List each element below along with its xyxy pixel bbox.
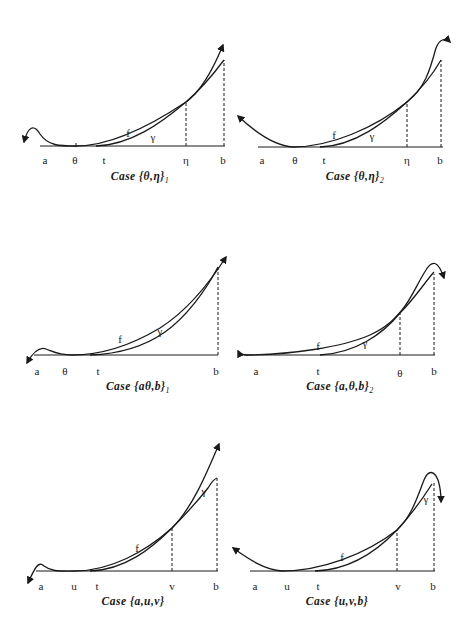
axis-label-a: a bbox=[43, 155, 48, 166]
panel-case-theta-eta-2: f γ a θ t η b Case {θ,η}2 bbox=[230, 0, 469, 200]
axis-label-t: t bbox=[102, 155, 105, 166]
curve-label-gamma: γ bbox=[151, 132, 156, 143]
curve-label-f: f bbox=[340, 552, 344, 563]
axis-label-a: a bbox=[254, 366, 259, 377]
curve-f bbox=[27, 257, 226, 363]
axis-label-theta: θ bbox=[292, 155, 297, 166]
curve-gamma bbox=[96, 60, 224, 146]
curve-label-f: f bbox=[316, 341, 320, 352]
caption-case-theta-eta-2: Case {θ,η}2 bbox=[326, 170, 385, 185]
panel-case-u-v-b: f γ a u t v b Case {u,v,b} bbox=[230, 430, 469, 624]
caption-case-theta-eta-1: Case {θ,η}1 bbox=[111, 170, 170, 185]
panel-case-theta-eta-1: f γ a θ t η b Case {θ,η}1 bbox=[0, 0, 235, 200]
axis-label-t: t bbox=[95, 581, 98, 592]
panel-case-a-theta-b-2: f γ a t θ b Case {a,θ,b}2 bbox=[230, 210, 469, 410]
curve-label-gamma: γ bbox=[202, 486, 207, 497]
axis-label-b: b bbox=[437, 155, 443, 166]
curve-gamma bbox=[320, 272, 434, 355]
curve-label-f: f bbox=[126, 128, 130, 139]
axis-label-v: v bbox=[395, 581, 401, 592]
curve-label-gamma: γ bbox=[363, 338, 368, 349]
axis-label-t: t bbox=[96, 366, 99, 377]
curve-gamma bbox=[90, 478, 217, 571]
axis-label-b: b bbox=[220, 155, 226, 166]
axis-label-u: u bbox=[71, 581, 77, 592]
panel-case-a-theta-b-1: f γ a θ t b Case {aθ,b}1 bbox=[0, 210, 235, 410]
curve-label-f: f bbox=[332, 130, 336, 141]
axis-label-b: b bbox=[213, 581, 219, 592]
axis-label-b: b bbox=[430, 581, 436, 592]
axis-label-a: a bbox=[39, 581, 44, 592]
curve-f bbox=[238, 263, 444, 355]
curve-gamma bbox=[315, 484, 432, 571]
axis-label-theta: θ bbox=[62, 366, 67, 377]
axis-label-b: b bbox=[431, 366, 437, 377]
axis-label-u: u bbox=[284, 581, 290, 592]
curve-label-f: f bbox=[135, 543, 139, 554]
caption-case-a-theta-b-2: Case {a,θ,b}2 bbox=[306, 380, 374, 395]
axis-label-t: t bbox=[316, 581, 319, 592]
curve-label-f: f bbox=[118, 334, 122, 345]
caption-case-a-u-v: Case {a,u,v} bbox=[102, 595, 165, 610]
panel-case-a-u-v: f γ a u t v b Case {a,u,v} bbox=[0, 430, 235, 624]
axis-label-theta: θ bbox=[72, 155, 77, 166]
axis-label-t: t bbox=[322, 155, 325, 166]
caption-case-a-theta-b-1: Case {aθ,b}1 bbox=[106, 380, 170, 395]
curve-label-gamma: γ bbox=[158, 326, 163, 337]
axis-label-b: b bbox=[213, 366, 219, 377]
axis-label-a: a bbox=[35, 366, 40, 377]
axis-label-theta: θ bbox=[397, 368, 402, 379]
axis-label-a: a bbox=[253, 581, 258, 592]
axis-label-a: a bbox=[260, 155, 265, 166]
curve-gamma bbox=[90, 267, 218, 355]
axis-label-v: v bbox=[169, 581, 175, 592]
curve-label-gamma: γ bbox=[424, 494, 429, 505]
curve-f bbox=[238, 40, 450, 147]
axis-label-eta: η bbox=[183, 155, 189, 166]
curve-gamma bbox=[320, 60, 441, 147]
axis-label-eta: η bbox=[404, 155, 410, 166]
axis-label-t: t bbox=[316, 366, 319, 377]
caption-case-u-v-b: Case {u,v,b} bbox=[306, 595, 368, 610]
curve-label-gamma: γ bbox=[370, 131, 375, 142]
curve-f bbox=[233, 473, 441, 572]
curve-f bbox=[28, 444, 219, 583]
